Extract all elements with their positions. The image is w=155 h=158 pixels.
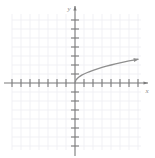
x-axis-arrowhead — [144, 81, 149, 84]
coordinate-plane-svg: x y — [0, 0, 155, 158]
x-axis-label: x — [144, 87, 149, 95]
graph-figure: x y — [0, 0, 155, 158]
y-axis: y — [66, 5, 79, 156]
y-axis-arrowhead — [73, 6, 76, 11]
y-axis-label: y — [66, 5, 71, 13]
grid-lines — [12, 14, 141, 150]
x-axis: x — [4, 79, 149, 95]
